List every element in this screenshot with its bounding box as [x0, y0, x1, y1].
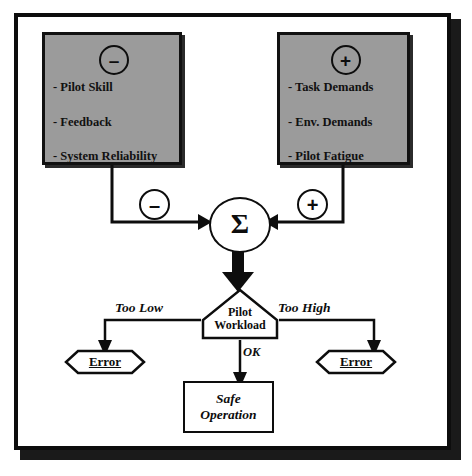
list-item: - System Reliability [53, 150, 175, 163]
safe-operation-node: Safe Operation [183, 381, 274, 433]
positive-factors-box: + - Task Demands - Env. Demands - Pilot … [277, 32, 410, 165]
circle-plus-icon: + [331, 45, 361, 75]
error-node-right: Error [315, 349, 397, 375]
pilot-workload-label: Pilot Workload [201, 306, 279, 332]
plus-sign-glyph: + [340, 51, 351, 70]
pilot-workload-label-line2: Workload [201, 319, 279, 332]
error-label: Error [315, 354, 397, 369]
positive-factor-list: - Task Demands - Env. Demands - Pilot Fa… [288, 81, 403, 185]
wire-minus-badge: – [139, 189, 170, 220]
negative-factors-box: – - Pilot Skill - Feedback - System Reli… [42, 32, 182, 165]
list-item: - Pilot Skill [53, 81, 175, 94]
safe-operation-label: Safe Operation [200, 391, 256, 423]
list-item: - Env. Demands [288, 116, 403, 129]
wire-plus-badge: + [297, 189, 328, 220]
sigma-icon: Σ [231, 210, 249, 238]
branch-label-ok: OK [243, 345, 260, 360]
pilot-workload-node: Pilot Workload [201, 288, 279, 340]
circle-plus-icon: + [297, 189, 328, 220]
branch-label-too-low: Too Low [115, 300, 163, 316]
summing-junction-node: Σ [209, 197, 271, 253]
circle-minus-icon: – [139, 189, 170, 220]
circle-minus-icon: – [99, 45, 129, 75]
list-item: - Task Demands [288, 81, 403, 94]
error-label: Error [64, 354, 146, 369]
negative-factor-list: - Pilot Skill - Feedback - System Reliab… [53, 81, 175, 185]
list-item: - Pilot Fatigue [288, 150, 403, 163]
diagram-canvas: – - Pilot Skill - Feedback - System Reli… [0, 0, 472, 476]
plus-sign-glyph: + [307, 195, 319, 215]
error-node-left: Error [64, 349, 146, 375]
branch-label-too-high: Too High [278, 300, 330, 316]
list-item: - Feedback [53, 116, 175, 129]
minus-sign-glyph: – [109, 51, 120, 70]
safe-operation-label-line1: Safe [200, 391, 256, 407]
safe-operation-label-line2: Operation [200, 407, 256, 423]
minus-sign-glyph: – [149, 195, 160, 215]
